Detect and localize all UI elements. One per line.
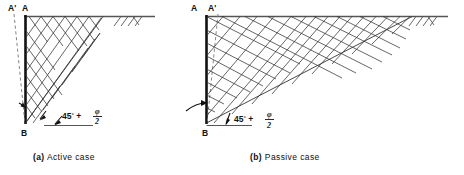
angle-value-active: 45 (62, 111, 72, 121)
svg-text:45° +: 45° + (62, 111, 81, 121)
slip-line-mesh-active-set2 (26, 17, 102, 124)
caption-text-active: Active case (47, 152, 95, 162)
earth-hatch-icon-active (114, 17, 142, 27)
divisor-active: 2 (94, 117, 99, 126)
caption-text-passive: Passive case (265, 152, 320, 162)
plus-symbol-passive: + (248, 114, 253, 124)
deflected-wall-dashed-active (14, 14, 25, 124)
panel-active: A' A B 45° + φ 2 (8, 3, 155, 138)
angle-annotation-active: 45° + φ 2 (62, 107, 102, 126)
caption-tag-passive: (b) (250, 152, 262, 162)
label-wall-top-active: A (22, 3, 28, 13)
plus-symbol-active: + (76, 111, 81, 121)
svg-text:45° +: 45° + (234, 114, 253, 124)
caption-active: (a) Active case (33, 152, 95, 162)
label-wall-top-passive: A (191, 3, 197, 13)
label-wall-base-passive: B (202, 128, 208, 138)
earth-hatch-icon-passive (409, 17, 437, 27)
angle-pointer-passive (226, 113, 231, 126)
earth-pressure-figure: A' A B 45° + φ 2 (0, 0, 464, 175)
label-wall-top-deflected-active: A' (8, 3, 16, 13)
divisor-passive: 2 (266, 121, 271, 130)
panel-passive: A A' B 45° + φ 2 (186, 3, 448, 138)
wall-rotation-arrow-passive (186, 100, 208, 111)
caption-passive: (b) Passive case (250, 152, 320, 162)
label-wall-top-deflected-passive: A' (208, 3, 216, 13)
caption-tag-active: (a) (33, 152, 45, 162)
angle-annotation-passive: 45° + φ 2 (234, 110, 274, 130)
slip-line-mesh-active-set1 (26, 17, 100, 119)
phi-symbol-active: φ (95, 107, 100, 116)
slip-line-mesh-passive-set1 (207, 17, 411, 113)
angle-value-passive: 45 (234, 114, 244, 124)
angle-pointer-active (40, 111, 63, 126)
label-wall-base-active: B (21, 128, 27, 138)
phi-symbol-passive: φ (267, 110, 272, 119)
